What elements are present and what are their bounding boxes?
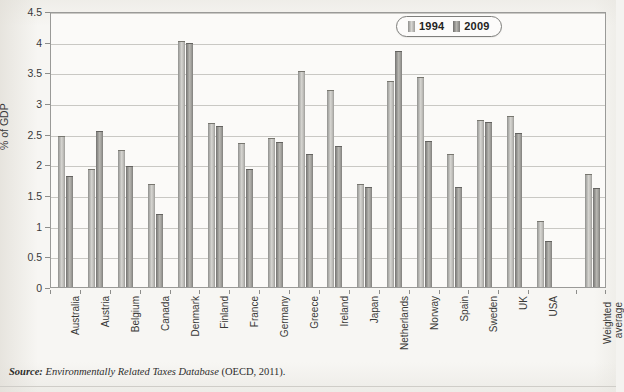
y-tick-label: 2 (0, 159, 42, 171)
x-tick-label: UK (518, 296, 529, 362)
x-tick-mark (498, 290, 499, 294)
y-tick-mark (45, 104, 50, 105)
x-tick-label: Netherlands (399, 296, 410, 362)
x-tick-label: Japan (369, 296, 380, 362)
x-tick-label: Australia (70, 296, 81, 362)
y-tick-label: 1.5 (0, 190, 42, 202)
y-tick-label: 4.5 (0, 6, 42, 18)
source-caption: Source: Environmentally Related Taxes Da… (9, 366, 285, 377)
x-tick-label: France (249, 296, 260, 362)
y-tick-label: 0 (0, 282, 42, 294)
y-axis-title: % of GDP (0, 103, 10, 150)
x-tick-label: Ireland (339, 296, 350, 362)
x-tick-mark (576, 290, 577, 294)
x-tick-mark (140, 290, 141, 294)
x-tick-mark (409, 290, 410, 294)
x-tick-mark (319, 290, 320, 294)
chart-legend: 1994 2009 (396, 16, 502, 37)
y-tick-mark (45, 196, 50, 197)
x-tick-mark (605, 290, 606, 294)
x-tick-mark (199, 290, 200, 294)
x-tick-mark (349, 290, 350, 294)
x-tick-mark (289, 290, 290, 294)
page-divider (0, 386, 616, 387)
y-tick-label: 3.5 (0, 67, 42, 79)
x-tick-label: USA (548, 296, 559, 362)
x-tick-mark (50, 290, 51, 294)
x-tick-mark (259, 290, 260, 294)
x-tick-label: Norway (429, 296, 440, 362)
x-tick-mark (468, 290, 469, 294)
x-tick-label: Austria (100, 296, 111, 362)
legend-item-1994[interactable]: 1994 (408, 20, 444, 32)
legend-item-label: 2009 (464, 20, 489, 32)
x-tick-label: Spain (459, 296, 470, 362)
legend-swatch-icon (453, 21, 460, 32)
x-tick-label: Denmark (190, 296, 201, 362)
x-tick-label: Belgium (130, 296, 141, 362)
x-tick-mark (439, 290, 440, 294)
x-tick-label: Sweden (488, 296, 499, 362)
x-tick-label: Canada (160, 296, 171, 362)
y-tick-mark (45, 135, 50, 136)
x-tick-label: Weightedaverage (602, 302, 624, 362)
y-tick-mark (45, 12, 50, 13)
source-title: Environmentally Related Taxes Database (45, 366, 218, 377)
x-tick-label: Finland (219, 296, 230, 362)
y-tick-mark (45, 288, 50, 289)
x-tick-mark (110, 290, 111, 294)
y-tick-mark (45, 257, 50, 258)
source-suffix: (OECD, 2011). (221, 366, 285, 377)
y-tick-mark (45, 227, 50, 228)
x-axis-labels: AustraliaAustriaBelgiumCanadaDenmarkFinl… (50, 290, 606, 360)
legend-item-label: 1994 (419, 20, 444, 32)
y-tick-mark (45, 43, 50, 44)
x-tick-mark (80, 290, 81, 294)
x-tick-mark (528, 290, 529, 294)
y-tick-mark (45, 165, 50, 166)
source-prefix: Source: (9, 366, 43, 377)
legend-item-2009[interactable]: 2009 (453, 20, 489, 32)
x-tick-label: Germany (279, 296, 290, 362)
x-tick-mark (229, 290, 230, 294)
y-tick-label: 1 (0, 221, 42, 233)
legend-swatch-icon (408, 21, 415, 32)
x-tick-label: Greece (309, 296, 320, 362)
y-tick-label: 4 (0, 37, 42, 49)
y-tick-mark (45, 73, 50, 74)
y-tick-label: 0.5 (0, 251, 42, 263)
x-tick-mark (170, 290, 171, 294)
y-axis-ticks (50, 12, 606, 288)
x-tick-mark (379, 290, 380, 294)
